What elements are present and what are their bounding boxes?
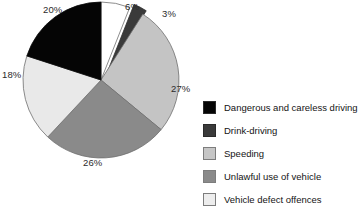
slice-label-speeding: 27% [171, 83, 190, 94]
legend-item-dangerous-driving[interactable]: Dangerous and careless driving [203, 96, 351, 119]
pie-chart-svg [0, 0, 205, 219]
legend-swatch-icon [203, 147, 216, 160]
legend-item-label: Dangerous and careless driving [224, 102, 358, 113]
legend-swatch-icon [203, 193, 216, 206]
legend-item-label: Vehicle defect offences [224, 194, 322, 205]
legend-item-label: Unlawful use of vehicle [224, 171, 321, 182]
legend-item-speeding[interactable]: Speeding [203, 142, 351, 165]
slice-label-unlawful-use: 26% [83, 157, 102, 168]
chart-legend: Dangerous and careless driving Drink-dri… [203, 96, 351, 211]
legend-item-unlawful-use[interactable]: Unlawful use of vehicle [203, 165, 351, 188]
slice-label-other: 6% [125, 1, 139, 12]
slice-label-vehicle-defect: 18% [2, 69, 21, 80]
legend-item-label: Speeding [224, 148, 264, 159]
legend-swatch-icon [203, 124, 216, 137]
legend-item-vehicle-defect[interactable]: Vehicle defect offences [203, 188, 351, 211]
legend-item-label: Drink-driving [224, 125, 277, 136]
legend-item-drink-driving[interactable]: Drink-driving [203, 119, 351, 142]
slice-label-dangerous-driving: 20% [43, 4, 62, 15]
pie-plot-area: 20% 6% 3% 27% 26% 18% [0, 0, 205, 219]
legend-swatch-icon [203, 101, 216, 114]
slice-label-drink-driving: 3% [162, 8, 176, 19]
legend-swatch-icon [203, 170, 216, 183]
